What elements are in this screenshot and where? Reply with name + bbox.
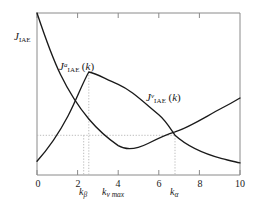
x-tick-label-k-v-max: kv max [102, 187, 124, 198]
x-tick-label-8: 8 [195, 179, 205, 189]
x-tick-label-k-beta: kβ [79, 187, 87, 198]
y-axis-subscript: IAE [19, 36, 31, 44]
curve-a-subscript: IAE [67, 66, 79, 74]
axes-frame [37, 13, 240, 175]
k-v-max-subscript: v max [106, 190, 124, 199]
curve-v-iae [37, 72, 240, 163]
chart-figure: JIAE JaIAE (k) JvIAE (k) 0 2 4 6 8 10 kβ… [0, 0, 257, 208]
x-axis-ticks [37, 13, 240, 175]
curve-j-a-iae [37, 13, 240, 149]
k-alpha-subscript: α [174, 190, 178, 199]
annotation-curve-a: JaIAE (k) [59, 61, 94, 74]
x-tick-label-0: 0 [33, 179, 43, 189]
chart-canvas [0, 0, 257, 208]
curve-v-subscript: IAE [154, 97, 166, 105]
k-beta-subscript: β [83, 190, 87, 199]
x-tick-label-10: 10 [233, 179, 247, 189]
x-tick-label-k-alpha: kα [170, 187, 178, 198]
y-axis-label: JIAE [14, 31, 31, 44]
x-tick-label-6: 6 [154, 179, 164, 189]
annotation-curve-v: JvIAE (k) [146, 92, 181, 105]
guide-lines [37, 72, 175, 175]
